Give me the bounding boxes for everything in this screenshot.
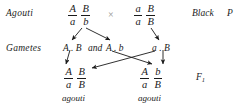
f1-right-allele-pair-1: A a xyxy=(140,67,149,90)
arrow-parent-left-to-gamete-ab2 xyxy=(86,28,110,40)
parent-left-genotype: A a B b xyxy=(68,4,90,27)
row-label-parents: Agouti xyxy=(6,8,33,18)
row-label-gametes: Gametes xyxy=(6,43,41,53)
f1-right-genotype: A a b B xyxy=(140,67,162,90)
f1-right-allele-pair-2: b B xyxy=(153,67,162,90)
f1-left-allele-pair-2: B B xyxy=(77,67,86,90)
f1-left-phenotype: agouti xyxy=(62,93,85,103)
gamete-left-first: A . B xyxy=(63,43,82,53)
f1-right-phenotype: agouti xyxy=(138,93,161,103)
f1-left-allele-pair-1: A a xyxy=(64,67,73,90)
cross-symbol: × xyxy=(108,9,114,20)
genetics-cross-diagram: Agouti A a B b × a a B B Black P Gametes… xyxy=(0,0,239,108)
f1-left-genotype: A a B B xyxy=(64,67,86,90)
gamete-left-second: A . b xyxy=(106,43,124,53)
gamete-right: a . B xyxy=(152,43,170,53)
parent-left-allele-pair-2: B b xyxy=(81,4,90,27)
parent-left-allele-pair-1: A a xyxy=(68,4,77,27)
generation-label-f1: F1 xyxy=(196,72,205,82)
parent-right-phenotype-label: Black xyxy=(192,8,214,18)
arrow-parent-left-to-gamete-ab xyxy=(72,28,82,40)
parent-right-allele-pair-2: B B xyxy=(146,4,155,27)
generation-label-f1-subscript: 1 xyxy=(202,76,205,83)
arrow-parent-right-to-gamete-ab xyxy=(151,28,159,40)
gamete-conjunction: and xyxy=(88,43,102,53)
parent-right-allele-pair-1: a a xyxy=(134,4,142,27)
parent-right-genotype: a a B B xyxy=(134,4,155,27)
generation-label-p: P xyxy=(227,8,233,18)
generation-label-f1-letter: F xyxy=(196,72,202,82)
